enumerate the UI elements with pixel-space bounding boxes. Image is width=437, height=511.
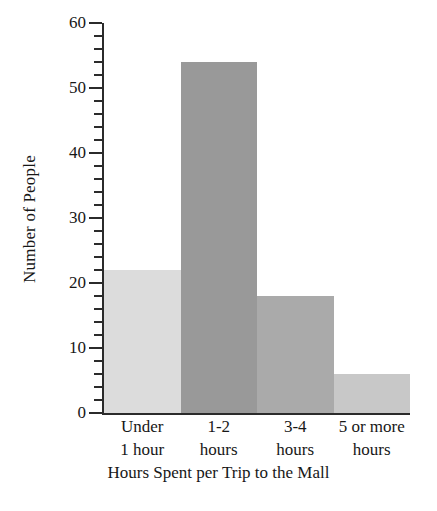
y-axis-minor-tick [94,165,102,167]
y-axis-minor-tick [94,204,102,206]
y-axis-minor-tick [94,48,102,50]
y-axis-minor-tick [94,61,102,63]
y-axis-minor-tick [94,269,102,271]
y-axis-minor-tick [94,230,102,232]
bar [334,374,411,413]
y-axis-major-tick [89,412,102,414]
y-axis-major-tick [89,217,102,219]
y-axis-minor-tick [94,74,102,76]
y-axis-tick-label: 10 [52,339,86,356]
y-axis-minor-tick [94,191,102,193]
y-axis-minor-tick [94,308,102,310]
y-axis-minor-tick [94,360,102,362]
x-axis-tick-label: 5 or morehours [324,415,421,461]
y-axis-major-tick [89,152,102,154]
y-axis-minor-tick [94,386,102,388]
y-axis-minor-tick [94,243,102,245]
y-axis-tick-labels: 0102030405060 [50,23,86,413]
y-axis-minor-tick [94,334,102,336]
y-axis-major-tick [89,87,102,89]
y-axis-minor-tick [94,126,102,128]
y-axis-title-text: Number of People [20,155,40,283]
plot-area: 0102030405060 [104,23,410,413]
y-axis-minor-tick [94,373,102,375]
y-axis-minor-tick [94,100,102,102]
y-axis-major-tick [89,22,102,24]
bar-chart-figure: Number of People 0102030405060 Under1 ho… [0,0,437,511]
y-axis-tick-label: 20 [52,274,86,291]
y-axis-major-tick [89,347,102,349]
y-axis-minor-tick [94,178,102,180]
y-axis-minor-tick [94,399,102,401]
y-axis-tick-label: 40 [52,144,86,161]
y-axis-tick-label: 30 [52,209,86,226]
bar [257,296,334,413]
x-axis-tick-label-line: 5 or more [324,415,421,438]
x-axis-tick-label-line: hours [324,438,421,461]
y-axis-minor-tick [94,295,102,297]
x-axis-tick-labels: Under1 hour1-2hours3-4hours5 or morehour… [104,415,410,465]
y-axis-minor-tick [94,256,102,258]
y-axis-minor-tick [94,321,102,323]
y-axis-tick-label: 60 [52,14,86,31]
bar-series [104,23,410,413]
bar [181,62,258,413]
x-axis-title: Hours Spent per Trip to the Mall [0,463,437,483]
y-axis-minor-tick [94,35,102,37]
y-axis-minor-tick [94,139,102,141]
bar [104,270,181,413]
y-axis-tick-label: 0 [52,404,86,421]
y-axis-minor-tick [94,113,102,115]
y-axis-major-tick [89,282,102,284]
y-axis-tick-label: 50 [52,79,86,96]
